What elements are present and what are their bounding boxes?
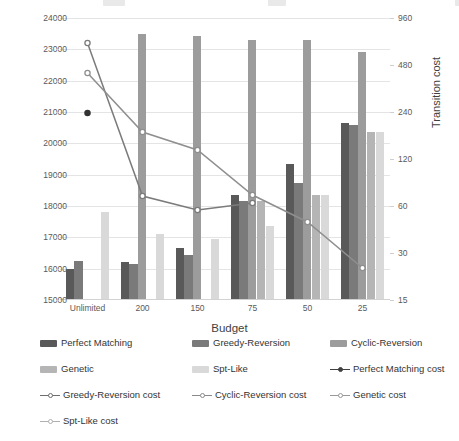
y-axis-right-title: Transition cost	[430, 57, 442, 128]
legend-item[interactable]: Perfect Matching	[40, 338, 132, 348]
legend-label: Perfect Matching	[61, 338, 132, 348]
legend-line-marker-icon	[40, 391, 60, 400]
y-axis-left-tick-label: 24000	[21, 14, 67, 22]
y-axis-left-tick-mark	[56, 269, 59, 270]
y-axis-left-tick-label: 16000	[21, 265, 67, 273]
legend-item[interactable]: Greedy-Reversion	[192, 338, 290, 348]
legend-item[interactable]: Genetic	[40, 364, 94, 374]
greedy-reversion-cost-marker	[195, 207, 200, 212]
legend: Perfect MatchingGreedy-ReversionCyclic-R…	[0, 338, 459, 441]
legend-line-marker-icon	[330, 391, 350, 400]
y-axis-right-tick-label: 15	[398, 296, 438, 304]
x-axis-title: Budget	[0, 322, 459, 334]
legend-label: Greedy-Reversion	[213, 338, 290, 348]
genetic-cost-marker	[85, 70, 90, 75]
x-axis-tick-label: 50	[280, 303, 335, 313]
x-axis-tick-label: 150	[170, 303, 225, 313]
legend-line-marker-icon	[330, 365, 350, 374]
y-axis-left-tick-mark	[56, 206, 59, 207]
legend-line-marker-icon	[192, 391, 212, 400]
chart-figure: 1500016000170001800019000200002100022000…	[0, 0, 459, 441]
x-axis-tick-label: 200	[115, 303, 170, 313]
y-axis-left-tick-label: 17000	[21, 233, 67, 241]
genetic-cost-marker	[305, 219, 310, 224]
y-axis-left-tick-mark	[56, 81, 59, 82]
y-axis-left-tick-label: 19000	[21, 171, 67, 179]
greedy-reversion-cost-marker	[250, 200, 255, 205]
legend-item[interactable]: Cyclic-Reversion	[330, 338, 422, 348]
greedy-reversion-cost-path	[88, 43, 253, 210]
legend-swatch-icon	[192, 366, 209, 373]
legend-item[interactable]: Cyclic-Reversion cost	[192, 390, 306, 400]
legend-label: Genetic	[61, 364, 94, 374]
legend-label: Spt-Like	[213, 364, 248, 374]
y-axis-left-tick-label: 21000	[21, 108, 67, 116]
genetic-cost-marker	[140, 129, 145, 134]
legend-item[interactable]: Genetic cost	[330, 390, 406, 400]
y-axis-left-tick-mark	[56, 237, 59, 238]
greedy-reversion-cost-marker	[85, 40, 90, 45]
y-axis-right-tick-label: 120	[398, 155, 438, 163]
y-axis-right-tick-mark	[390, 65, 394, 66]
x-axis-tick-label: 75	[225, 303, 280, 313]
y-axis-right-tick-mark	[390, 253, 394, 254]
genetic-cost-marker	[195, 147, 200, 152]
legend-line-marker-icon	[40, 417, 60, 426]
legend-item[interactable]: Spt-Like cost	[40, 416, 118, 426]
legend-label: Cyclic-Reversion	[351, 338, 422, 348]
y-axis-right-tick-label: 60	[398, 202, 438, 210]
y-axis-left-tick-label: 20000	[21, 139, 67, 147]
legend-label: Cyclic-Reversion cost	[215, 390, 306, 400]
greedy-reversion-cost-marker	[140, 193, 145, 198]
y-axis-left-tick-mark	[56, 300, 59, 301]
legend-label: Genetic cost	[353, 390, 406, 400]
x-axis-line	[60, 299, 390, 300]
x-axis-tick-label: Unlimited	[60, 303, 115, 313]
y-axis-left-tick-mark	[56, 175, 59, 176]
plot-area	[60, 18, 390, 300]
genetic-cost-marker	[360, 265, 365, 270]
y-axis-right-tick-mark	[390, 300, 394, 301]
legend-swatch-icon	[192, 340, 209, 347]
legend-item[interactable]: Perfect Matching cost	[330, 364, 444, 374]
y-axis-right-tick-label: 960	[398, 14, 438, 22]
x-axis-tick-label: 25	[335, 303, 390, 313]
y-axis-right-tick-label: 30	[398, 249, 438, 257]
legend-label: Spt-Like cost	[63, 416, 118, 426]
top-clipped-artifact	[0, 0, 459, 9]
legend-swatch-icon	[40, 340, 57, 347]
y-axis-left-tick-label: 22000	[21, 77, 67, 85]
y-axis-left-tick-mark	[56, 18, 59, 19]
y-axis-right-tick-mark	[390, 18, 394, 19]
y-axis-right-tick-mark	[390, 159, 394, 160]
legend-item[interactable]: Spt-Like	[192, 364, 248, 374]
legend-swatch-icon	[330, 340, 347, 347]
legend-label: Greedy-Reversion cost	[63, 390, 160, 400]
y-axis-right-tick-mark	[390, 112, 394, 113]
y-axis-left-tick-label: 23000	[21, 45, 67, 53]
perfect-matching-cost-marker	[85, 110, 90, 115]
genetic-cost-marker	[250, 192, 255, 197]
y-axis-right-tick-mark	[390, 206, 394, 207]
legend-label: Perfect Matching cost	[353, 364, 444, 374]
y-axis-left-tick-mark	[56, 49, 59, 50]
y-axis-left-tick-mark	[56, 143, 59, 144]
y-axis-left-tick-mark	[56, 112, 59, 113]
legend-swatch-icon	[40, 366, 57, 373]
genetic-cost-path	[88, 73, 363, 268]
legend-item[interactable]: Greedy-Reversion cost	[40, 390, 160, 400]
lines-layer	[60, 18, 390, 300]
y-axis-left-tick-label: 18000	[21, 202, 67, 210]
